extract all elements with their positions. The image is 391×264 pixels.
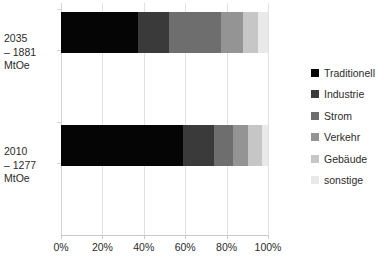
plot-area (61, 3, 268, 235)
bar-segment-traditionell (61, 12, 138, 53)
gridline-100 (268, 3, 269, 235)
legend-label: Traditionell (324, 67, 375, 79)
bar-segment-gebäude (248, 125, 261, 166)
category-label-line: – 1277 (4, 159, 58, 173)
x-axis-tick-label: 0% (39, 241, 83, 253)
legend-item-verkehr[interactable]: Verkehr (311, 127, 391, 149)
category-label-2010: 2010– 1277MtOe (4, 145, 58, 186)
category-label-line: 2035 (4, 32, 58, 46)
category-label-line: – 1881 (4, 46, 58, 60)
legend-swatch-icon (311, 69, 319, 77)
y-axis-tick (57, 50, 61, 51)
legend-swatch-icon (311, 155, 319, 163)
category-label-line: 2010 (4, 145, 58, 159)
y-axis-tick (57, 9, 61, 10)
x-axis-tick-label: 100% (246, 241, 290, 253)
stacked-bar-chart: 2035– 1881MtOe 2010– 1277MtOe 0%20%40%60… (0, 0, 391, 264)
legend-item-sonstige[interactable]: sonstige (311, 170, 391, 192)
x-axis-tick-label: 40% (122, 241, 166, 253)
x-axis-tick (268, 235, 269, 239)
legend-label: Strom (324, 110, 352, 122)
bar-segment-verkehr (221, 12, 243, 53)
legend-swatch-icon (311, 112, 319, 120)
bar-segment-traditionell (61, 125, 183, 166)
y-axis-tick (57, 122, 61, 123)
legend-item-industrie[interactable]: Industrie (311, 84, 391, 106)
legend: TraditionellIndustrieStromVerkehrGebäude… (311, 62, 391, 191)
legend-item-traditionell[interactable]: Traditionell (311, 62, 391, 84)
legend-swatch-icon (311, 176, 319, 184)
x-axis-line (61, 235, 269, 236)
legend-label: sonstige (324, 174, 363, 186)
category-label-2035: 2035– 1881MtOe (4, 32, 58, 73)
x-axis-tick (144, 235, 145, 239)
x-axis-tick-label: 60% (163, 241, 207, 253)
x-axis-tick (185, 235, 186, 239)
bar-segment-industrie (183, 125, 214, 166)
legend-label: Industrie (324, 88, 364, 100)
legend-swatch-icon (311, 133, 319, 141)
bar-segment-sonstige (262, 125, 268, 166)
x-axis-tick-label: 80% (205, 241, 249, 253)
legend-item-gebäude[interactable]: Gebäude (311, 148, 391, 170)
stacked-bar (61, 12, 268, 53)
legend-swatch-icon (311, 90, 319, 98)
category-label-line: MtOe (4, 59, 58, 73)
x-axis-tick (227, 235, 228, 239)
bar-segment-strom (214, 125, 233, 166)
x-axis-tick (102, 235, 103, 239)
bar-segment-industrie (138, 12, 169, 53)
bar-segment-sonstige (258, 12, 268, 53)
bar-segment-strom (169, 12, 221, 53)
bar-segment-gebäude (243, 12, 257, 53)
category-label-line: MtOe (4, 172, 58, 186)
legend-item-strom[interactable]: Strom (311, 105, 391, 127)
y-axis-tick (57, 163, 61, 164)
stacked-bar (61, 125, 268, 166)
legend-label: Gebäude (324, 153, 367, 165)
legend-label: Verkehr (324, 131, 360, 143)
bar-segment-verkehr (233, 125, 248, 166)
x-axis-tick (61, 235, 62, 239)
x-axis-tick-label: 20% (80, 241, 124, 253)
